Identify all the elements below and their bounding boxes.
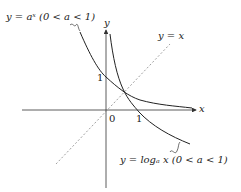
y-axis-label: y: [104, 18, 110, 28]
log-curve: [110, 34, 190, 144]
y-tick-1-label: 1: [97, 73, 103, 83]
identity-line: [56, 44, 170, 164]
exp-pointer-squiggle: [70, 24, 80, 31]
exp-curve-label: y = aˣ (0 < a < 1): [6, 12, 95, 22]
origin-label: 0: [109, 114, 115, 124]
log-curve-label: y = logₐ x (0 < a < 1): [120, 155, 228, 165]
x-tick-1-label: 1: [136, 114, 142, 124]
exp-curve: [80, 32, 192, 108]
identity-line-label: y = x: [158, 31, 184, 41]
x-axis-label: x: [199, 104, 205, 114]
log-pointer-squiggle: [170, 142, 180, 153]
